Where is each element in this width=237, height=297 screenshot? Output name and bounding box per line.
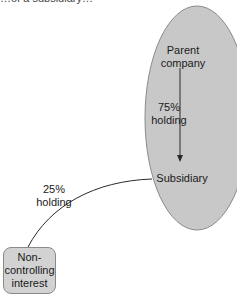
parent-label-line1: Parent <box>160 44 206 57</box>
parent-holding-text: holding <box>146 114 192 127</box>
nci-label-line1: Non- <box>4 251 54 264</box>
parent-label-line2: company <box>160 57 206 70</box>
nci-holding-text: holding <box>32 196 76 209</box>
parent-holding-pct: 75% <box>146 101 192 114</box>
nci-label-line3: interest <box>4 277 54 290</box>
non-controlling-interest-node: Non- controlling interest <box>3 247 56 294</box>
parent-holding-label: 75% holding <box>146 101 192 127</box>
parent-company-node: Parent company <box>160 44 206 70</box>
nci-label-line2: controlling <box>4 264 54 277</box>
nci-holding-label: 25% holding <box>32 183 76 209</box>
nci-holding-pct: 25% <box>32 183 76 196</box>
subsidiary-node: Subsidiary <box>154 172 210 185</box>
